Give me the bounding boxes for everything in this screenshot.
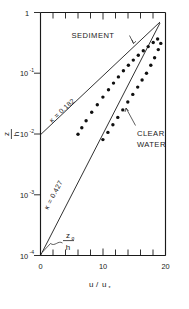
semilog-velocity-profile-chart: 1 10 -1 10 -2 10 -3 10 -4 0 10 20 z h u …	[0, 0, 189, 309]
data-series-clear-water	[101, 42, 162, 142]
x-axis-title-numerator: u	[89, 280, 93, 289]
sediment-label: SEDIMENT	[72, 31, 115, 40]
x-axis-title: u / u *	[89, 280, 111, 291]
x-axis-title-subscript: *	[109, 285, 111, 291]
y-tick-label-1e-1-exponent: -1	[30, 67, 35, 73]
x-axis-ticks-top	[53, 13, 153, 20]
sediment-leader-arrow	[132, 40, 136, 44]
kappa-sediment-annotation: κ = 0.182	[48, 97, 76, 124]
y-tick-label-1e-1-mantissa: 10	[20, 69, 28, 78]
z0-leader-line	[43, 242, 63, 252]
y-tick-label-1e-4-exponent: -4	[30, 249, 35, 255]
y-tick-label-1e-3-exponent: -3	[30, 189, 35, 195]
x-axis-ticks-bottom	[41, 249, 166, 256]
y-tick-label-1: 1	[25, 9, 29, 18]
z0-over-h-annotation: z o h	[63, 231, 75, 252]
y-axis-title: z h	[2, 129, 21, 139]
y-tick-label-1e-2-mantissa: 10	[20, 130, 28, 139]
y-tick-label-1e-2-exponent: -2	[30, 128, 35, 134]
z0-subscript: o	[72, 235, 75, 241]
figure-container: 1 10 -1 10 -2 10 -3 10 -4 0 10 20 z h u …	[0, 0, 189, 309]
x-axis-title-slash: /	[96, 280, 99, 289]
x-axis-title-denominator: u	[102, 280, 106, 289]
y-axis-ticks	[34, 13, 41, 256]
y-tick-label-1e-3-mantissa: 10	[20, 191, 28, 200]
clear-water-label-line2: WATER	[137, 140, 166, 149]
z0-denominator: h	[66, 243, 70, 252]
x-tick-label-0: 0	[38, 262, 42, 271]
x-axis-tick-labels: 0 10 20	[38, 262, 169, 271]
kappa-clear-water-value: = 0.427	[46, 179, 64, 205]
y-axis-title-numerator: z	[2, 132, 11, 136]
kappa-clear-water-symbol: κ	[43, 204, 51, 211]
kappa-sediment-value: = 0.182	[53, 97, 76, 119]
y-axis-tick-labels: 1 10 -1 10 -2 10 -3 10 -4	[20, 9, 34, 261]
clear-water-label-line1: CLEAR	[137, 129, 165, 138]
x-tick-label-10: 10	[99, 262, 107, 271]
x-tick-label-20: 20	[161, 262, 169, 271]
clear-water-leader-line	[126, 108, 136, 126]
y-tick-label-1e-4-mantissa: 10	[20, 252, 28, 261]
data-series-sediment	[76, 37, 159, 136]
kappa-clear-water-annotation: κ = 0.427	[43, 179, 64, 210]
z0-numerator: z	[66, 231, 70, 240]
y-axis-title-denominator: h	[12, 132, 21, 136]
